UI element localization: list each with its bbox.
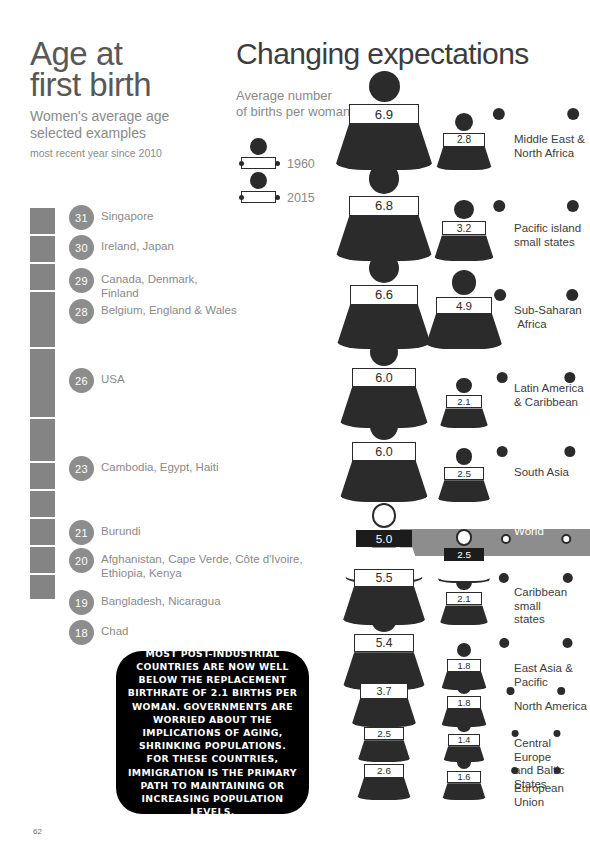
age-scale-segment: [30, 349, 55, 417]
region-label: South Asia: [514, 466, 569, 480]
age-country-label: Cambodia, Egypt, Haiti: [101, 456, 219, 475]
pictogram-body-icon: [433, 235, 495, 261]
pictogram-body-icon: [333, 124, 435, 170]
pictogram-hand-right-icon: [564, 446, 575, 457]
pictogram-body-icon: [335, 305, 434, 349]
pictogram-value-label: 1.4: [448, 734, 480, 746]
age-scale-bar: [30, 208, 55, 601]
pictogram-value-label: 5.4: [354, 634, 414, 652]
pictogram-hand-left-icon: [497, 446, 508, 457]
age-scale-segment: [30, 491, 55, 517]
pictogram-body-icon: [357, 740, 412, 762]
age-badge: 30: [69, 235, 94, 260]
pictogram-body-icon: [435, 147, 493, 170]
pictogram-body-icon: [424, 314, 505, 349]
age-country-label: Chad: [101, 620, 129, 639]
age-scale-segment: [30, 292, 55, 347]
region-label: Sub-Saharan Africa: [514, 304, 582, 331]
age-row: 29Canada, Denmark,Finland: [69, 268, 198, 300]
pictogram-value-label: 2.1: [446, 592, 483, 605]
pictogram-head-icon: [369, 71, 400, 102]
pictogram-hand-left-icon: [497, 372, 508, 383]
region-label: World: [514, 525, 544, 539]
pictogram-body-icon: [440, 672, 487, 690]
age-scale-segment: [30, 519, 55, 545]
age-scale-segment: [30, 419, 55, 461]
pictogram-body-icon: [338, 387, 430, 428]
pictogram-body-icon: [341, 587, 428, 625]
pictogram-value-label: 3.2: [442, 221, 486, 236]
pictogram-value-label: 2.6: [364, 764, 404, 778]
highlight-band: [400, 529, 590, 556]
pictogram-hand-left-icon: [494, 289, 506, 301]
pictogram-value-label: 4.9: [436, 297, 492, 314]
pictogram-value-label: 2.1: [446, 395, 483, 408]
age-country-label: Canada, Denmark,Finland: [101, 268, 198, 300]
page-number: 62: [33, 827, 42, 836]
pictogram-value-label: 6.6: [350, 285, 418, 305]
pictogram-head-icon: [457, 643, 472, 658]
region-label: Latin America& Caribbean: [514, 382, 584, 409]
right-panel: Changing expectations Average number of …: [232, 0, 590, 868]
pictogram-hand-right-icon: [561, 534, 571, 544]
left-panel: Age at first birth Women's average age s…: [0, 0, 232, 868]
age-country-label: Burundi: [101, 520, 141, 539]
age-scale-segment: [30, 575, 55, 599]
region-label: Caribbean smallstates: [514, 586, 590, 627]
age-row: 28Belgium, England & Wales: [69, 299, 237, 324]
pictogram-head-icon: [372, 503, 397, 528]
pictogram-hand-right-icon: [563, 573, 573, 583]
age-badge: 18: [69, 620, 94, 645]
pictogram-value-label: 5.0: [356, 530, 413, 547]
region-label: North America: [514, 700, 587, 714]
pictogram-value-label: 1.6: [447, 771, 480, 783]
pictogram-hand-left-icon: [499, 573, 509, 583]
age-row: 23Cambodia, Egypt, Haiti: [69, 456, 219, 481]
age-scale-segment: [30, 547, 55, 573]
pictogram-hand-left-icon: [493, 108, 505, 120]
age-row: 18Chad: [69, 620, 129, 645]
pictogram-value-label: 2.5: [444, 467, 483, 481]
age-scale-segment: [30, 208, 55, 234]
pictogram-head-icon: [454, 200, 473, 219]
pictogram-hand-right-icon: [553, 730, 560, 737]
pictogram-value-label: 1.8: [447, 696, 482, 709]
pictogram-head-icon: [456, 529, 473, 546]
pictogram-value-label: 6.0: [352, 442, 416, 461]
pictogram-hand-left-icon: [511, 767, 518, 774]
pictogram-value-label: 1.8: [447, 659, 482, 672]
age-country-label: Ireland, Japan: [101, 235, 174, 254]
age-row: 31Singapore: [69, 205, 153, 230]
age-badge: 20: [69, 548, 94, 573]
region-label: East Asia & Pacific: [514, 662, 590, 689]
pictogram-body-icon: [338, 461, 430, 502]
pictogram-body-icon: [441, 783, 486, 800]
pictogram-hand-right-icon: [554, 767, 561, 774]
age-badge: 29: [69, 268, 94, 293]
region-label: Middle East &North Africa: [514, 133, 585, 160]
chart-body: 6.92.8Middle East &North Africa6.83.2Pac…: [232, 0, 590, 868]
left-subtitle: Women's average age selected examples: [30, 108, 230, 142]
age-badge: 26: [69, 368, 94, 393]
pictogram-hand-right-icon: [557, 687, 565, 695]
pictogram-body-icon: [356, 778, 412, 800]
age-badge: 31: [69, 205, 94, 230]
age-badge: 19: [69, 590, 94, 615]
pictogram-hand-left-icon: [512, 730, 519, 737]
pictogram-body-icon: [439, 408, 490, 428]
left-subtitle-line-1: Women's average age: [30, 108, 230, 125]
pictogram-body-icon: [334, 216, 435, 261]
age-row: 19Bangladesh, Nicaragua: [69, 590, 221, 615]
region-label: European Union: [514, 782, 590, 809]
pictogram-value-label: 6.0: [352, 368, 416, 387]
pictogram-body-icon: [443, 746, 486, 762]
left-title-line-1: Age at: [30, 38, 230, 69]
pictogram-body-icon: [437, 480, 492, 502]
pictogram-head-icon: [456, 448, 473, 465]
pictogram-body-icon: [440, 709, 487, 727]
age-badge: 28: [69, 299, 94, 324]
age-row: 21Burundi: [69, 520, 141, 545]
pictogram-value-label: 2.5: [444, 548, 483, 562]
left-page-title: Age at first birth: [30, 38, 230, 100]
age-scale-segment: [30, 236, 55, 262]
